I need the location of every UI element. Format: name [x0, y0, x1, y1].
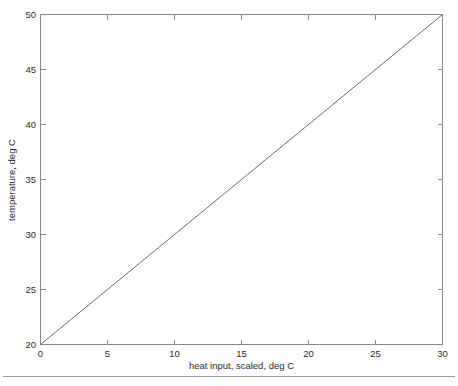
y-tick-label: 45 — [25, 64, 36, 75]
figure-canvas: 0 5 10 15 20 25 30 20 25 30 35 40 45 50 … — [0, 0, 458, 386]
data-series-group — [41, 15, 443, 345]
x-tick-label: 15 — [236, 348, 247, 359]
x-tick-labels: 0 5 10 15 20 25 30 — [38, 348, 448, 359]
y-tick-label: 50 — [25, 9, 36, 20]
x-tick-label: 20 — [303, 348, 314, 359]
y-axis-title: temperature, deg C — [6, 139, 17, 221]
y-tick-label: 35 — [25, 174, 36, 185]
x-tick-label: 5 — [105, 348, 110, 359]
x-tick-label: 25 — [370, 348, 381, 359]
y-tick-labels: 20 25 30 35 40 45 50 — [25, 9, 36, 350]
footer-divider — [3, 376, 455, 377]
x-axis-title: heat input, scaled, deg C — [189, 360, 294, 371]
y-tick-label: 20 — [25, 339, 36, 350]
y-tick-label: 40 — [25, 119, 36, 130]
x-tick-label: 0 — [38, 348, 43, 359]
y-tick-label: 30 — [25, 229, 36, 240]
x-tick-label: 10 — [169, 348, 180, 359]
plot-area: 0 5 10 15 20 25 30 20 25 30 35 40 45 50 … — [0, 0, 458, 386]
y-tick-label: 25 — [25, 284, 36, 295]
x-tick-label: 30 — [437, 348, 448, 359]
data-series-line — [41, 15, 443, 345]
